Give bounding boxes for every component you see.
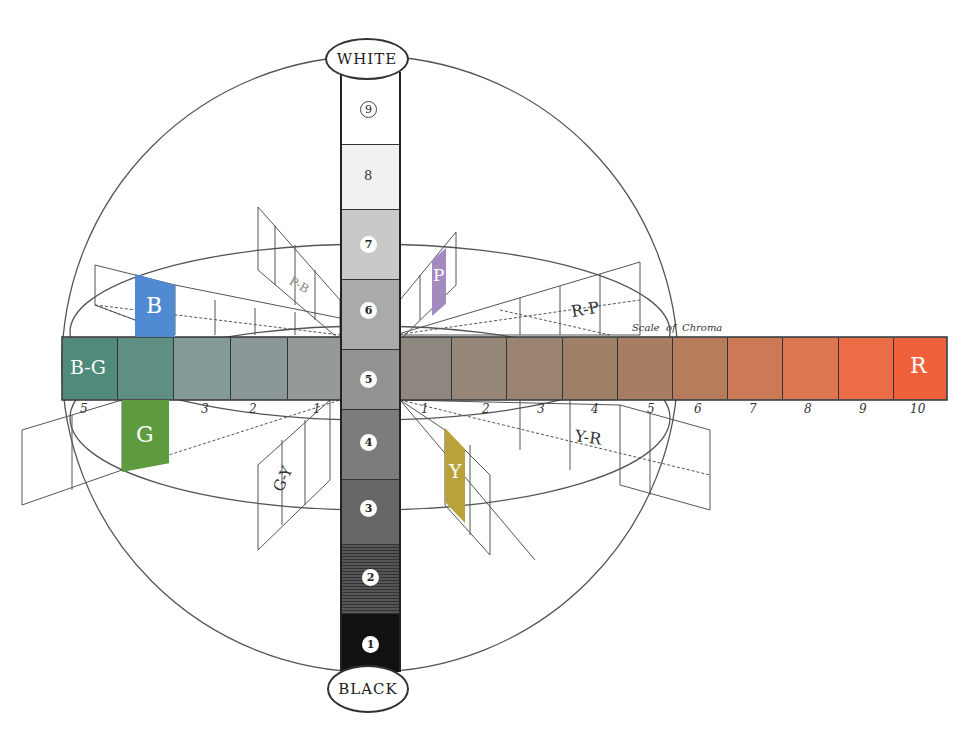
scale-of-chroma-label: Scale of Chroma (632, 322, 722, 333)
chroma-number-r3: 3 (537, 402, 545, 416)
hue-label-g: G (136, 422, 154, 447)
value-label-4: 4 (360, 434, 377, 451)
chroma-number-r6: 6 (694, 402, 702, 416)
chroma-number-l3: 3 (201, 402, 209, 416)
chroma-number-r1: 1 (421, 402, 429, 416)
value-label-2: 2 (362, 569, 379, 586)
chroma-cell-r-5 (618, 338, 673, 399)
chroma-cell-bg-1 (288, 338, 343, 399)
chroma-cell-bg-2 (231, 338, 287, 399)
hue-label-yr: Y-R (574, 426, 603, 448)
chroma-number-r7: 7 (749, 402, 757, 416)
chroma-number-r10: 10 (910, 402, 925, 416)
hue-label-p: P (433, 265, 444, 285)
chroma-number-r4: 4 (591, 402, 599, 416)
value-label-6: 6 (360, 302, 377, 319)
chroma-number-l5: 5 (80, 402, 88, 416)
value-label-7: 7 (360, 236, 377, 253)
value-label-8: 8 (364, 168, 372, 183)
value-label-3: 3 (360, 500, 377, 517)
chroma-cell-r-2 (452, 338, 507, 399)
chroma-cell-r-4 (563, 338, 618, 399)
chroma-number-r9: 9 (859, 402, 867, 416)
chroma-cell-bg-4 (118, 338, 173, 399)
chroma-cell-r-9 (839, 338, 894, 399)
chroma-label-r: R (910, 353, 927, 378)
chroma-cell-bg-3 (174, 338, 231, 399)
chroma-cell-r-1 (396, 338, 452, 399)
chroma-number-r2: 2 (482, 402, 490, 416)
white-cap-label: WHITE (325, 38, 409, 80)
value-label-9: 9 (360, 101, 377, 118)
black-cap-label: BLACK (327, 665, 409, 713)
value-label-1: 1 (362, 636, 379, 653)
chroma-bar-right (396, 338, 946, 399)
chroma-number-r5: 5 (647, 402, 655, 416)
chroma-number-r8: 8 (804, 402, 812, 416)
chroma-number-l1: 1 (313, 402, 321, 416)
hue-label-y: Y (449, 460, 462, 482)
chroma-label-bg: B-G (70, 356, 106, 378)
chroma-cell-r-7 (728, 338, 783, 399)
value-label-5: 5 (360, 371, 377, 388)
chroma-cell-r-8 (783, 338, 838, 399)
munsell-color-sphere-diagram: B P G Y P-B R-P G-Y Y-R B-G R Scale of C… (0, 0, 973, 734)
chroma-cell-r-6 (673, 338, 728, 399)
chroma-number-l2: 2 (249, 402, 257, 416)
hue-label-b: B (146, 293, 162, 318)
chroma-cell-r-3 (507, 338, 562, 399)
